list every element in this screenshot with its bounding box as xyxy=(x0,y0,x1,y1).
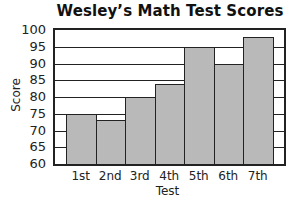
plot-area xyxy=(53,28,286,166)
x-tick-label: 7th xyxy=(243,169,273,183)
y-tick-label: 100 xyxy=(10,23,46,36)
bar-7th xyxy=(243,37,274,164)
bar-3rd xyxy=(125,97,156,164)
y-tick-label: 85 xyxy=(10,73,46,86)
x-tick-label: 3rd xyxy=(125,169,155,183)
x-tick-label: 2nd xyxy=(95,169,125,183)
y-tick-label: 90 xyxy=(10,57,46,70)
y-tick-label: 70 xyxy=(10,124,46,137)
y-tick-label: 75 xyxy=(10,107,46,120)
y-tick-label: 95 xyxy=(10,40,46,53)
x-tick-label: 6th xyxy=(213,169,243,183)
bar-4th xyxy=(155,84,186,164)
bar-5th xyxy=(184,47,215,164)
y-tick-label: 65 xyxy=(10,140,46,153)
y-tick-label: 80 xyxy=(10,90,46,103)
x-tick-label: 4th xyxy=(154,169,184,183)
bar-2nd xyxy=(96,120,127,164)
x-tick-label: 5th xyxy=(184,169,214,183)
y-tick-label: 60 xyxy=(10,157,46,170)
x-tick-label: 1st xyxy=(66,169,96,183)
bar-1st xyxy=(66,114,97,164)
bar-6th xyxy=(214,64,245,165)
chart-title: Wesley’s Math Test Scores xyxy=(52,2,288,20)
x-axis-label: Test xyxy=(53,184,282,198)
